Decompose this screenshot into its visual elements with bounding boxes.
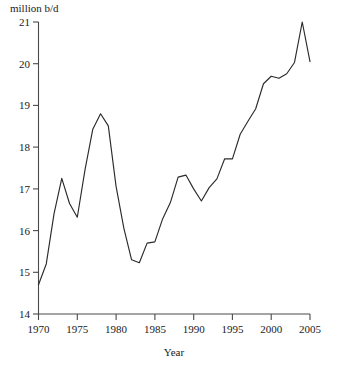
y-tick-label-15: 15	[19, 266, 31, 278]
y-tick-label-18: 18	[19, 141, 31, 153]
y-tick-label-20: 20	[19, 58, 31, 70]
data-series-line	[39, 22, 311, 285]
y-tick-label-21: 21	[19, 16, 30, 28]
y-tick-label-14: 14	[19, 308, 31, 320]
x-tick-label-1975: 1975	[66, 323, 89, 335]
x-axis-title: Year	[164, 346, 185, 358]
x-tick-label-1995: 1995	[221, 323, 244, 335]
y-tick-label-17: 17	[19, 183, 31, 195]
x-axis-group: 1970 1975 1980 1985 1990 1995 2000 2005 …	[28, 314, 322, 358]
x-tick-label-1990: 1990	[183, 323, 206, 335]
x-tick-marks	[39, 314, 311, 320]
y-tick-label-16: 16	[19, 225, 31, 237]
x-tick-label-1985: 1985	[144, 323, 167, 335]
x-tick-label-2005: 2005	[299, 323, 322, 335]
x-tick-label-2000: 2000	[260, 323, 283, 335]
y-tick-label-19: 19	[19, 99, 31, 111]
x-tick-label-1970: 1970	[28, 323, 51, 335]
y-axis-group: 21 20 19 18 17 16 15 14	[19, 16, 39, 320]
line-chart-plot: 21 20 19 18 17 16 15 14 1970 1975	[0, 0, 337, 368]
chart-figure: million b/d 21 20 19 18 17 16 15 14	[0, 0, 337, 368]
y-tick-marks	[33, 22, 39, 314]
x-tick-label-1980: 1980	[105, 323, 128, 335]
